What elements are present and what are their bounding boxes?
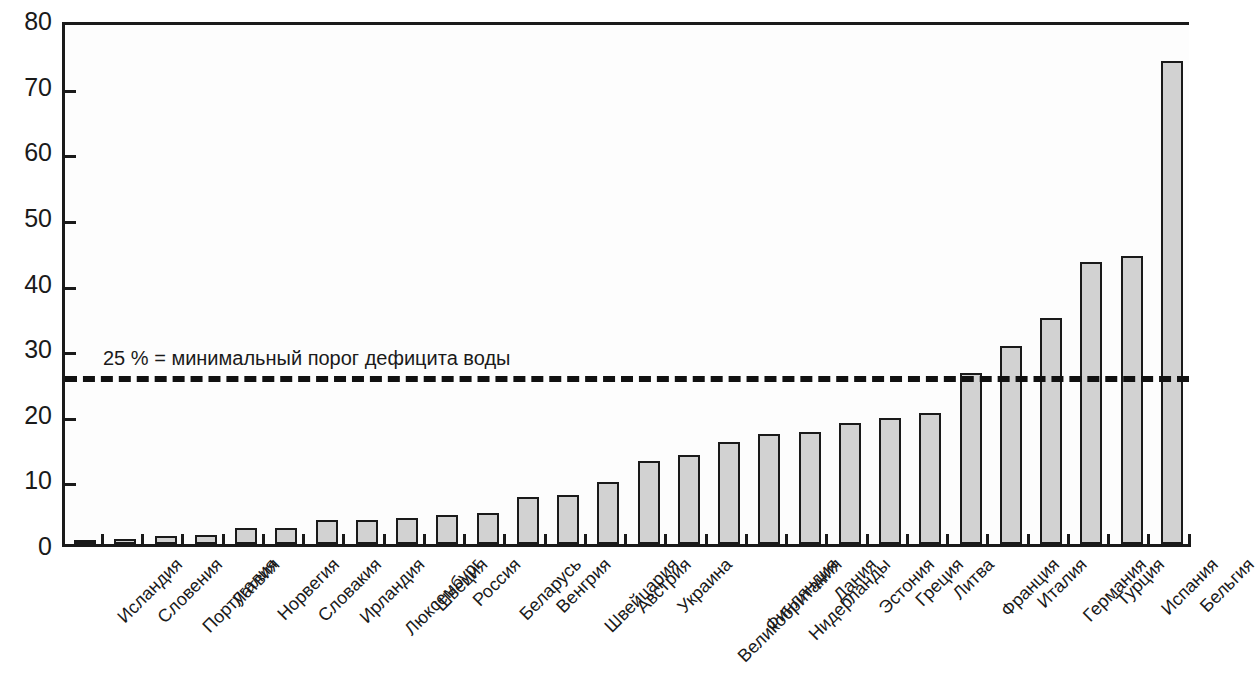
x-tick-mark xyxy=(986,534,989,547)
x-tick-mark xyxy=(262,534,265,547)
bar xyxy=(839,423,861,544)
bar xyxy=(1161,61,1183,544)
threshold-line xyxy=(65,376,1189,382)
bars-container xyxy=(65,25,1189,544)
bar xyxy=(1121,256,1143,544)
x-tick-mark xyxy=(383,534,386,547)
x-tick-mark xyxy=(624,534,627,547)
x-tick-mark xyxy=(664,534,667,547)
x-tick-mark xyxy=(1147,534,1150,547)
x-tick-mark xyxy=(463,534,466,547)
x-tick-mark xyxy=(1067,534,1070,547)
x-tick-mark xyxy=(101,534,104,547)
x-tick-mark xyxy=(503,534,506,547)
x-tick-mark xyxy=(222,534,225,547)
bar xyxy=(678,455,700,544)
y-tick-label: 10 xyxy=(6,468,52,493)
x-tick-mark xyxy=(423,534,426,547)
x-tick-mark xyxy=(906,534,909,547)
x-axis-label: Латвия xyxy=(228,555,282,609)
bar xyxy=(638,461,660,544)
x-tick-mark xyxy=(141,534,144,547)
x-tick-mark xyxy=(544,534,547,547)
x-tick-mark xyxy=(785,534,788,547)
x-tick-mark xyxy=(745,534,748,547)
y-tick-label: 40 xyxy=(6,272,52,297)
x-tick-mark xyxy=(1027,534,1030,547)
threshold-label: 25 % = минимальный порог дефицита воды xyxy=(103,347,510,369)
x-tick-mark xyxy=(705,534,708,547)
bar xyxy=(718,442,740,544)
x-tick-mark xyxy=(342,534,345,547)
bar xyxy=(799,432,821,544)
bar xyxy=(758,434,780,544)
y-tick-label: 60 xyxy=(6,140,52,165)
bar xyxy=(1080,262,1102,544)
bar xyxy=(960,373,982,544)
x-tick-mark xyxy=(584,534,587,547)
x-tick-mark xyxy=(1107,534,1110,547)
plot-area: 25 % = минимальный порог дефицита воды xyxy=(62,22,1189,547)
y-tick-label: 50 xyxy=(6,206,52,231)
bar xyxy=(919,413,941,544)
y-tick-label: 30 xyxy=(6,337,52,362)
x-tick-mark xyxy=(866,534,869,547)
x-tick-mark xyxy=(825,534,828,547)
x-tick-mark xyxy=(1188,534,1191,547)
y-tick-label: 20 xyxy=(6,403,52,428)
x-axis-labels: ИсландияСловенияПортугалияЛатвияНорвегия… xyxy=(0,547,1189,685)
y-tick-label: 70 xyxy=(6,75,52,100)
x-tick-mark xyxy=(946,534,949,547)
x-tick-mark xyxy=(302,534,305,547)
bar xyxy=(1040,318,1062,544)
y-tick-label: 80 xyxy=(6,9,52,34)
bar xyxy=(879,418,901,544)
x-tick-mark xyxy=(181,534,184,547)
